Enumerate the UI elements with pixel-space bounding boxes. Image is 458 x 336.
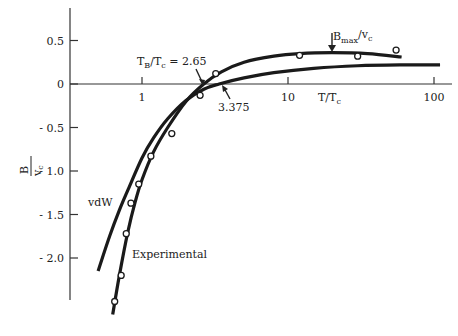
y-tick-label: - 2.0 bbox=[39, 252, 64, 265]
x-axis-label: T/Tc bbox=[318, 91, 341, 106]
vdw-curve bbox=[98, 65, 440, 271]
experimental-curve bbox=[113, 53, 402, 315]
data-point-marker bbox=[112, 299, 118, 305]
axes: 0.50- 0.5- 1.0- 1.5- 2.0110100 bbox=[39, 8, 452, 300]
vdw-boyle-label: 3.375 bbox=[218, 101, 250, 114]
data-point-marker bbox=[213, 71, 219, 77]
data-point-marker bbox=[393, 47, 399, 53]
data-point-marker bbox=[297, 52, 303, 58]
y-axis-numerator: B bbox=[18, 166, 31, 174]
boyle-temp-label: TB/Tc = 2.65 bbox=[137, 55, 206, 70]
y-axis-denominator: vc bbox=[31, 165, 45, 177]
y-tick-label: 0 bbox=[57, 78, 64, 91]
data-point-marker bbox=[123, 231, 129, 237]
x-tick-label: 10 bbox=[281, 91, 295, 104]
curves bbox=[98, 53, 440, 315]
virial-coefficient-chart: 0.50- 0.5- 1.0- 1.5- 2.0110100 T/Tc B vc… bbox=[0, 0, 458, 336]
annotations: T/Tc B vc TB/Tc = 2.65 3.375 Bmax/vc vdW… bbox=[18, 28, 373, 261]
data-point-marker bbox=[148, 153, 154, 159]
data-point-marker bbox=[128, 200, 134, 206]
data-points bbox=[112, 47, 399, 304]
experimental-series-label: Experimental bbox=[132, 248, 208, 261]
y-tick-label: 0.5 bbox=[47, 35, 65, 48]
data-point-marker bbox=[355, 53, 361, 59]
bmax-label: Bmax/vc bbox=[333, 28, 373, 45]
y-tick-label: - 0.5 bbox=[39, 122, 64, 135]
data-point-marker bbox=[118, 272, 124, 278]
y-axis-label: B vc bbox=[18, 156, 45, 177]
y-tick-label: - 1.5 bbox=[39, 209, 64, 222]
data-point-marker bbox=[197, 92, 203, 98]
arrowhead-icon bbox=[328, 45, 336, 52]
data-point-marker bbox=[136, 181, 142, 187]
x-tick-label: 100 bbox=[424, 91, 445, 104]
data-point-marker bbox=[169, 131, 175, 137]
x-tick-label: 1 bbox=[139, 91, 146, 104]
vdw-series-label: vdW bbox=[87, 196, 113, 209]
